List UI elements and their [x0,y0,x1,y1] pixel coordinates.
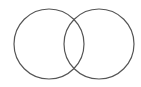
right-circle [64,9,134,79]
venn-diagram [0,0,141,87]
